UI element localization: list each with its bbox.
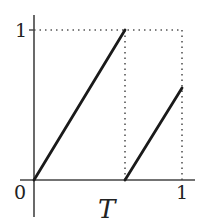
series-segment-1 <box>34 30 125 180</box>
x-tick-label-one: 1 <box>176 181 188 203</box>
x-axis-title: T <box>98 194 117 223</box>
series-segment-2 <box>125 88 182 180</box>
x-tick-label-origin: 0 <box>14 181 26 203</box>
y-tick-label-one: 1 <box>15 19 27 41</box>
sawtooth-chart: 1 0 1 T <box>0 0 203 223</box>
